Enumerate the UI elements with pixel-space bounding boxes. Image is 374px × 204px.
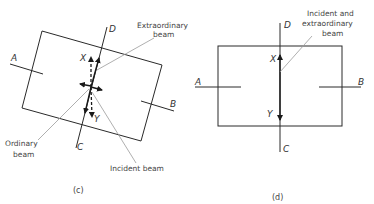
ordinary-beam-arrow bbox=[85, 87, 91, 113]
label-y: Y bbox=[94, 114, 101, 124]
leader-extraordinary bbox=[97, 38, 154, 70]
caption-d: (d) bbox=[272, 193, 283, 202]
label-c: C bbox=[283, 144, 290, 154]
label-x: X bbox=[79, 53, 87, 63]
leader-incident-extraordinary bbox=[280, 36, 312, 72]
annotation-extraordinary-line2: beam bbox=[153, 30, 174, 39]
y-direction-dashed-arrow bbox=[91, 87, 92, 117]
leader-incident bbox=[92, 92, 136, 163]
annotation-incident: Incident beam bbox=[110, 164, 164, 173]
annotation-line1: Incident and bbox=[307, 9, 354, 18]
diagram-canvas: A B C D X Y Extraordinary beam Ordinary … bbox=[0, 0, 374, 204]
label-a: A bbox=[10, 53, 17, 63]
annotation-line2: extraordinary bbox=[302, 19, 353, 28]
caption-c: (c) bbox=[73, 186, 84, 195]
extraordinary-beam-arrow bbox=[91, 58, 99, 87]
label-y: Y bbox=[267, 109, 274, 119]
annotation-ordinary-line2: beam bbox=[13, 150, 34, 159]
horizontal-left-arrow bbox=[80, 84, 91, 86]
label-c: C bbox=[77, 142, 84, 152]
annotation-line3: beam bbox=[322, 29, 343, 38]
axis-line-a bbox=[10, 64, 43, 74]
label-d: D bbox=[284, 20, 291, 30]
panel-d: A B C D X Y Incident and extraordinary b… bbox=[194, 9, 364, 202]
annotation-ordinary-line1: Ordinary bbox=[5, 139, 38, 148]
horizontal-right-arrow bbox=[91, 87, 102, 90]
annotation-extraordinary-line1: Extraordinary bbox=[137, 21, 189, 30]
label-b: B bbox=[170, 99, 176, 109]
label-x: X bbox=[269, 54, 277, 64]
label-d: D bbox=[109, 24, 116, 34]
panel-c: A B C D X Y Extraordinary beam Ordinary … bbox=[5, 21, 189, 195]
label-b: B bbox=[358, 77, 364, 87]
label-a: A bbox=[194, 77, 201, 87]
